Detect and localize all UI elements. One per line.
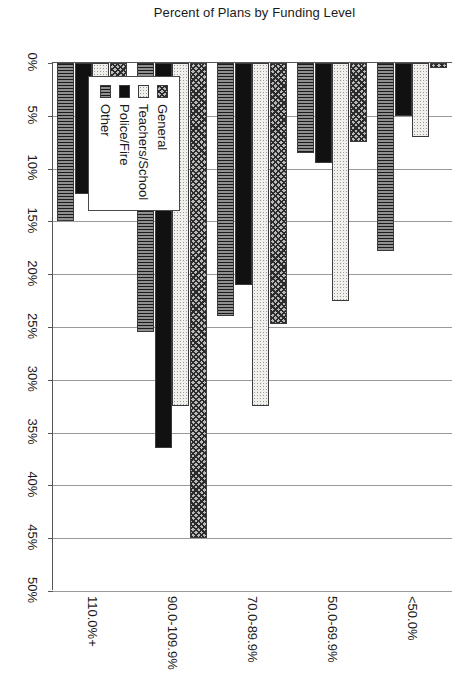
value-axis-tick-label: 35% xyxy=(25,419,40,445)
bar[interactable] xyxy=(297,63,314,153)
axis-tick-mark xyxy=(48,591,53,592)
legend-item[interactable]: Teachers/School xyxy=(134,85,153,200)
legend-swatch-icon xyxy=(119,85,130,98)
category-axis-label: 50.0-69.9% xyxy=(325,596,340,663)
legend-swatch-icon xyxy=(100,85,111,98)
bar[interactable] xyxy=(235,63,252,285)
legend-swatch-icon xyxy=(138,85,149,98)
legend-swatch-icon xyxy=(157,85,168,98)
bar-group xyxy=(292,63,372,590)
bar-group xyxy=(212,63,292,590)
gridline xyxy=(53,591,452,592)
legend-item-label: Police/Fire xyxy=(117,104,132,165)
bar[interactable] xyxy=(332,63,349,301)
bar[interactable] xyxy=(190,63,207,538)
category-axis-label: 110.0%+ xyxy=(85,596,100,647)
legend-item[interactable]: Police/Fire xyxy=(115,85,134,200)
value-axis-tick-label: 40% xyxy=(25,471,40,497)
value-axis-tick-label: 20% xyxy=(25,260,40,286)
legend-item[interactable]: General xyxy=(153,85,172,200)
legend-item-label: Teachers/School xyxy=(136,104,151,200)
bar[interactable] xyxy=(217,63,234,316)
value-axis-tick-label: 45% xyxy=(25,524,40,550)
bar[interactable] xyxy=(252,63,269,406)
legend-item-label: Other xyxy=(98,104,113,137)
category-axis-label: 70.0-89.9% xyxy=(245,596,260,663)
bar[interactable] xyxy=(377,63,394,251)
bar[interactable] xyxy=(270,63,287,324)
value-axis-title-text: Percent of Plans by Funding Level xyxy=(154,6,355,21)
legend[interactable]: GeneralTeachers/SchoolPolice/FireOther xyxy=(88,76,180,211)
value-axis-title: Percent of Plans by Funding Level xyxy=(40,2,470,24)
value-axis-tick-label: 25% xyxy=(25,313,40,339)
value-axis-tick-label: 50% xyxy=(25,577,40,603)
value-axis-tick-label: 30% xyxy=(25,366,40,392)
bar[interactable] xyxy=(412,63,429,137)
legend-item-label: General xyxy=(155,104,170,150)
bar[interactable] xyxy=(350,63,367,142)
legend-item[interactable]: Other xyxy=(96,85,115,200)
bar[interactable] xyxy=(430,63,447,68)
category-axis-label: <50.0% xyxy=(405,596,420,640)
value-axis-tick-label: 10% xyxy=(25,155,40,181)
category-axis-label: 90.0-109.9% xyxy=(165,596,180,670)
value-axis-tick-label: 0% xyxy=(25,53,40,72)
value-axis-tick-label: 5% xyxy=(25,105,40,124)
bar-group xyxy=(372,63,452,590)
value-axis-tick-label: 15% xyxy=(25,207,40,233)
bar[interactable] xyxy=(395,63,412,116)
bar[interactable] xyxy=(315,63,332,163)
bar[interactable] xyxy=(57,63,74,221)
